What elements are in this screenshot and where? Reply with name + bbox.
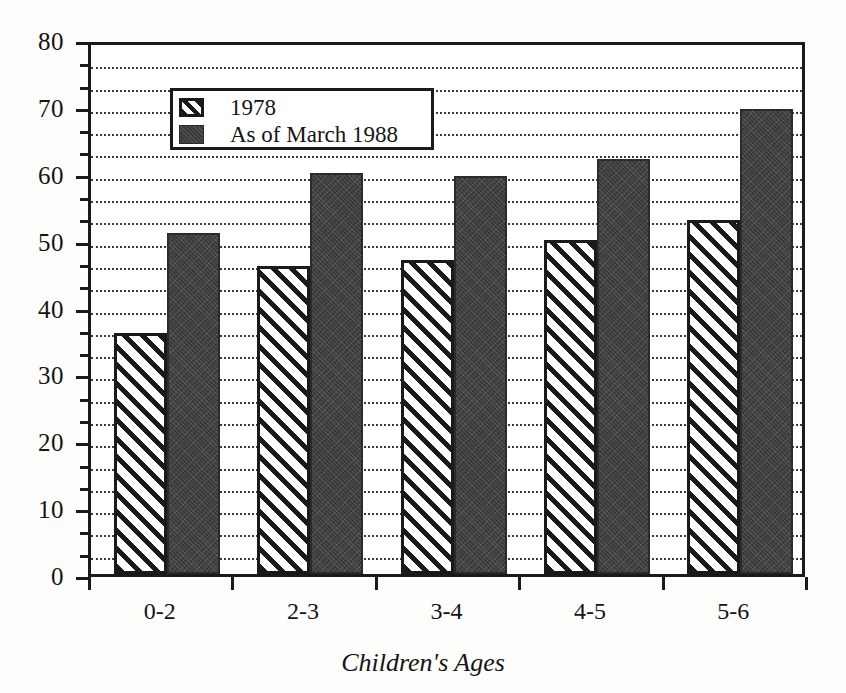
bar: [167, 233, 220, 574]
y-axis-tick-label: 80: [38, 29, 64, 54]
y-axis-tick-label: 50: [38, 230, 64, 255]
y-axis-tick-label: 60: [38, 163, 64, 188]
x-axis-tick-label: 3-4: [431, 598, 463, 624]
y-axis-tick-label: 70: [38, 96, 64, 121]
legend-label: As of March 1988: [230, 123, 398, 147]
x-axis-tick: [231, 577, 234, 590]
y-axis-tick-label: 10: [38, 497, 64, 522]
hatched-swatch-icon: [179, 98, 204, 117]
bar: [310, 173, 363, 574]
bar: [401, 260, 454, 574]
x-axis-tick: [88, 577, 91, 590]
bar: [114, 333, 167, 574]
bar: [454, 176, 507, 574]
gridline: [91, 67, 802, 69]
x-axis-tick-label: 0-2: [144, 598, 176, 624]
x-axis-tick-label: 4-5: [574, 598, 606, 624]
legend-entry-march-1988: As of March 1988: [179, 121, 423, 148]
x-axis-tick: [375, 577, 378, 590]
x-axis-title: Children's Ages: [0, 648, 846, 678]
y-axis-tick-label: 20: [38, 430, 64, 455]
bar: [544, 240, 597, 574]
solid-dark-swatch-icon: [179, 125, 204, 144]
x-axis-tick: [662, 577, 665, 590]
bar: [597, 159, 650, 574]
legend-label: 1978: [230, 96, 276, 120]
y-axis-tick-label: 40: [38, 297, 64, 322]
x-axis-tick-label: 5-6: [717, 598, 749, 624]
legend-entry-1978: 1978: [179, 94, 423, 121]
bar: [257, 266, 310, 574]
y-axis-tick-label: 30: [38, 363, 64, 388]
gridline: [91, 156, 802, 158]
x-axis-tick: [805, 577, 808, 590]
x-axis-tick: [518, 577, 521, 590]
legend: 1978 As of March 1988: [170, 88, 434, 150]
gridline: [91, 179, 802, 181]
x-axis-tick-label: 2-3: [287, 598, 319, 624]
bar-chart: 01020304050607080 0-22-33-44-55-6 Childr…: [0, 0, 846, 693]
gridline: [91, 201, 802, 203]
bar: [687, 220, 740, 574]
bar: [740, 109, 793, 574]
y-axis-tick-label: 0: [51, 564, 64, 589]
